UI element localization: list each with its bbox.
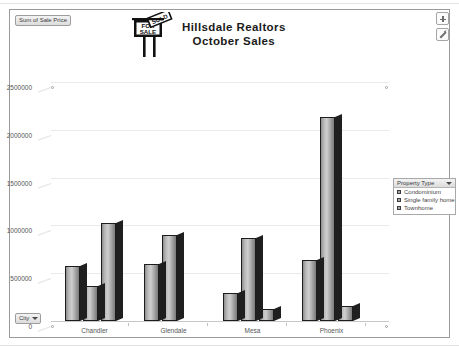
bar-side-face bbox=[353, 303, 360, 321]
bar-front-face bbox=[302, 260, 317, 321]
legend-item-label: Single family home bbox=[404, 197, 455, 203]
x-axis-tick bbox=[128, 323, 129, 326]
axis-endpoint-marker bbox=[51, 86, 54, 89]
bar-side-face bbox=[274, 305, 281, 321]
bar-side-face bbox=[80, 263, 87, 321]
svg-text:SALE: SALE bbox=[140, 28, 157, 35]
bar-side-face bbox=[317, 257, 324, 321]
bar-side-face bbox=[116, 219, 123, 321]
legend-item[interactable]: Condominium bbox=[394, 188, 455, 196]
value-field-label: Sum of Sale Price bbox=[19, 16, 67, 25]
legend-field-button[interactable]: Property Type bbox=[394, 179, 455, 188]
worksheet-canvas: Sum of Sale Price FOR SALE SOLD bbox=[0, 0, 459, 352]
bar-column[interactable] bbox=[223, 293, 238, 321]
y-axis-tick-label: 500000 bbox=[10, 275, 32, 282]
city-field-label: City bbox=[19, 314, 29, 323]
chevron-down-icon bbox=[446, 182, 452, 185]
x-axis-category-label: Mesa bbox=[245, 327, 261, 334]
legend-swatch bbox=[397, 190, 401, 194]
chevron-down-icon bbox=[32, 317, 38, 320]
bar-side-face bbox=[177, 232, 184, 321]
plot-area: 05000001000000150000020000002500000Chand… bbox=[37, 65, 389, 323]
bar-column[interactable] bbox=[302, 260, 317, 321]
value-field-button[interactable]: Sum of Sale Price bbox=[15, 15, 71, 26]
bar-column[interactable] bbox=[65, 266, 80, 321]
y-axis-tick-label: 1500000 bbox=[7, 179, 32, 186]
bar-side-face bbox=[238, 290, 245, 321]
chart-tools bbox=[435, 12, 450, 41]
legend-item-label: Townhome bbox=[404, 205, 433, 211]
legend-item-list: CondominiumSingle family homeTownhome bbox=[394, 188, 455, 212]
x-axis-tick bbox=[207, 323, 208, 326]
axis-endpoint-marker bbox=[385, 86, 388, 89]
depth-edge bbox=[38, 135, 51, 141]
legend-item[interactable]: Townhome bbox=[394, 204, 455, 212]
bar-side-face bbox=[159, 261, 166, 321]
pivot-chart-frame[interactable]: Sum of Sale Price FOR SALE SOLD bbox=[9, 9, 450, 338]
pencil-icon bbox=[440, 31, 447, 38]
gridline bbox=[51, 321, 389, 322]
depth-edge bbox=[38, 326, 51, 332]
legend[interactable]: Property Type CondominiumSingle family h… bbox=[393, 178, 456, 215]
depth-edge bbox=[38, 230, 51, 236]
bar-side-face bbox=[98, 283, 105, 321]
depth-edge bbox=[38, 278, 51, 284]
legend-swatch bbox=[397, 206, 401, 210]
x-axis-tick bbox=[286, 323, 287, 326]
x-axis-category-label: Phoenix bbox=[320, 327, 344, 334]
axis-endpoint-marker bbox=[385, 325, 388, 328]
legend-field-label: Property Type bbox=[397, 180, 434, 186]
chart-title-line2: October Sales bbox=[182, 34, 286, 48]
bar-side-face bbox=[256, 235, 263, 321]
legend-item-label: Condominium bbox=[404, 189, 441, 195]
sheet-gridline bbox=[0, 3, 459, 4]
bar-front-face bbox=[223, 293, 238, 321]
legend-swatch bbox=[397, 198, 401, 202]
city-field-button[interactable]: City bbox=[15, 313, 41, 324]
x-axis-category-label: Glendale bbox=[160, 327, 186, 334]
y-axis-tick-label: 1000000 bbox=[7, 227, 32, 234]
y-axis-tick-label: 2500000 bbox=[7, 84, 32, 91]
page-title: Hillsdale Realtors October Sales bbox=[182, 12, 286, 48]
bar-column[interactable] bbox=[144, 264, 159, 321]
bar-front-face bbox=[65, 266, 80, 321]
chart-title-block: FOR SALE SOLD Hillsdale Realtors October… bbox=[120, 12, 350, 58]
axis-endpoint-marker bbox=[51, 325, 54, 328]
x-axis-category-label: Chandler bbox=[81, 327, 107, 334]
sheet-gridline bbox=[0, 345, 459, 346]
depth-edge bbox=[38, 183, 51, 189]
bar-side-face bbox=[335, 114, 342, 321]
gridline bbox=[51, 82, 389, 83]
add-chart-element-button[interactable] bbox=[436, 12, 449, 25]
x-axis-tick bbox=[365, 323, 366, 326]
bar-front-face bbox=[144, 264, 159, 321]
for-sale-sign-icon: FOR SALE SOLD bbox=[120, 12, 176, 58]
depth-edge bbox=[38, 87, 51, 93]
chart-styles-button[interactable] bbox=[436, 28, 449, 41]
y-axis-tick-label: 2000000 bbox=[7, 131, 32, 138]
chart-title-line1: Hillsdale Realtors bbox=[182, 20, 286, 34]
legend-item[interactable]: Single family home bbox=[394, 196, 455, 204]
